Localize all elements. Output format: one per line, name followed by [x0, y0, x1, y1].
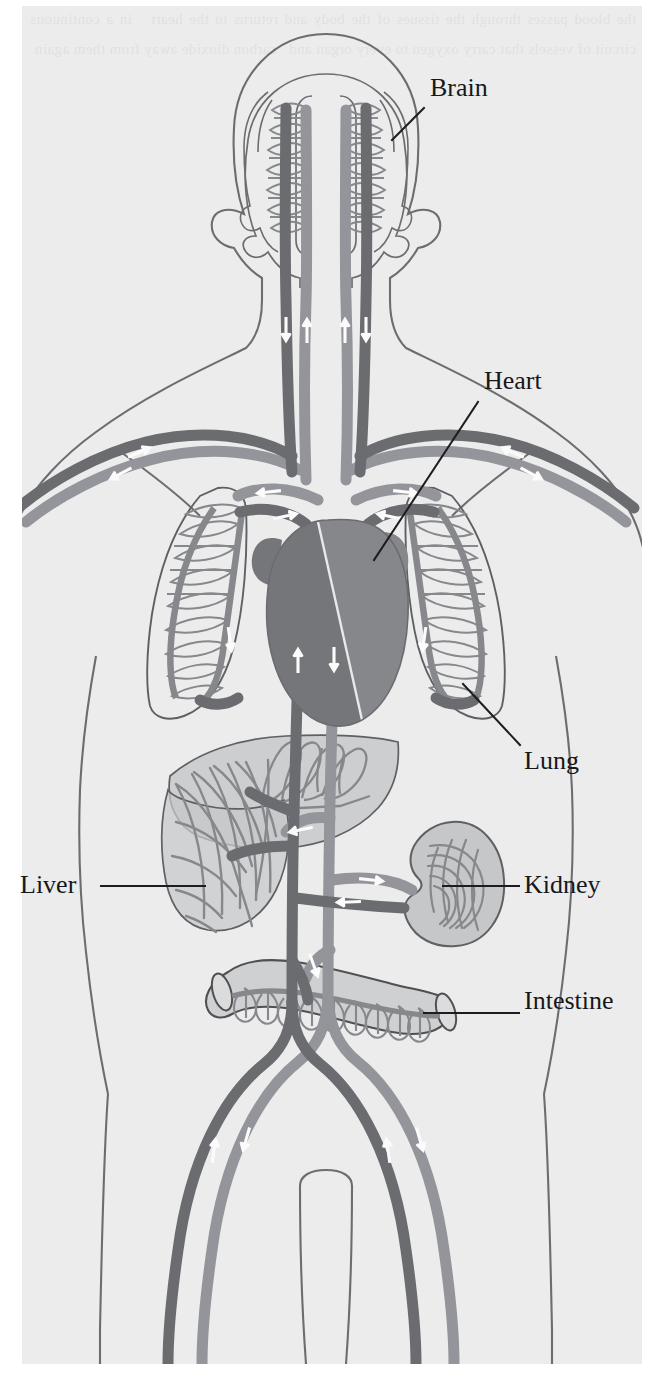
figure-page: the blood passes through the tissues of …: [0, 0, 652, 1390]
heart-organ: [252, 519, 409, 726]
label-liver: Liver: [20, 872, 76, 898]
circulatory-system-figure: [0, 0, 652, 1390]
lung-right-organ: [406, 488, 505, 719]
leader-lung: [463, 684, 520, 745]
label-kidney: Kidney: [524, 872, 601, 898]
kidney-organ: [405, 822, 505, 946]
brain-organ: [240, 74, 411, 288]
label-lung: Lung: [524, 748, 579, 774]
label-intestine: Intestine: [524, 988, 614, 1014]
label-brain: Brain: [430, 75, 488, 101]
lung-left-organ: [147, 488, 246, 719]
label-heart: Heart: [484, 368, 542, 394]
